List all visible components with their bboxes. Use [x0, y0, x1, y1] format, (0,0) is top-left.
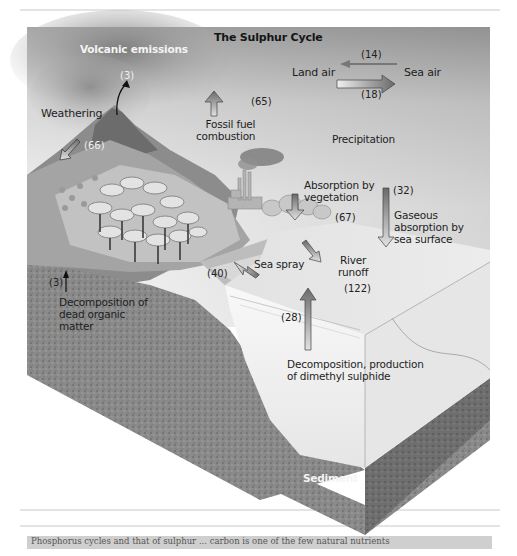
label-precipitation: Precipitation	[332, 133, 395, 145]
label-gaseous-line2: absorption by	[394, 221, 464, 233]
diagram-title: The Sulphur Cycle	[214, 32, 323, 44]
label-decomposition-dms: Decomposition, production of dimethyl su…	[287, 358, 424, 382]
label-dms-line2: of dimethyl sulphide	[287, 370, 390, 382]
flow-gaseous-absorption: (32)	[393, 185, 414, 196]
label-fossil-fuel-line1: Fossil fuel	[206, 118, 256, 130]
sulphur-cycle-illustration	[0, 0, 517, 556]
label-weathering: Weathering	[41, 108, 102, 120]
label-dead-line2: dead organic	[59, 308, 125, 320]
flow-weathering: (66)	[84, 140, 105, 151]
flow-vegetation: (67)	[335, 212, 356, 223]
label-dead-line3: matter	[59, 320, 93, 332]
bottom-strip-text: Phosphorus cycles and that of sulphur ..…	[31, 536, 390, 546]
label-sediment: Sediment	[303, 472, 358, 484]
flow-sea-to-land-air: (14)	[361, 49, 382, 60]
label-dead-line1: Decomposition of	[59, 296, 148, 308]
label-sea-air: Sea air	[404, 67, 441, 79]
label-fossil-fuel-line2: combustion	[196, 130, 255, 142]
flow-land-to-sea-air: (18)	[361, 89, 382, 100]
label-river-line1: River	[340, 254, 366, 266]
label-dms-line1: Decomposition, production	[287, 358, 424, 370]
flow-fossil-fuel: (65)	[251, 96, 272, 107]
bottom-caption-strip: Phosphorus cycles and that of sulphur ..…	[27, 536, 492, 549]
label-river-line2: runoff	[338, 266, 368, 278]
flow-dead-organic: (3)	[49, 277, 63, 288]
label-gaseous-absorption: Gaseous absorption by sea surface	[394, 209, 464, 245]
label-river-runoff: River runoff	[338, 254, 368, 278]
flow-sea-spray: (40)	[207, 268, 228, 279]
label-fossil-fuel: Fossil fuel combustion	[196, 118, 255, 142]
flow-dms: (28)	[281, 312, 302, 323]
label-gaseous-line1: Gaseous	[394, 209, 438, 221]
label-absorption-vegetation: Absorption by vegetation	[304, 179, 374, 203]
label-land-air: Land air	[292, 67, 335, 79]
label-absorption-line1: Absorption by	[304, 179, 374, 191]
label-sea-spray: Sea spray	[254, 258, 304, 270]
flow-river-runoff: (122)	[344, 283, 371, 294]
label-volcanic-emissions: Volcanic emissions	[80, 43, 188, 55]
label-gaseous-line3: sea surface	[394, 233, 452, 245]
label-decomposition-dead-organic: Decomposition of dead organic matter	[59, 296, 148, 332]
flow-volcanic: (3)	[120, 70, 134, 81]
label-absorption-line2: vegetation	[304, 191, 358, 203]
